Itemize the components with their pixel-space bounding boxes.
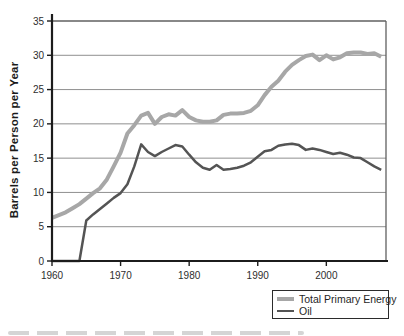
- x-tick-label: 1990: [247, 270, 270, 281]
- legend-item-total-primary-energy: Total Primary Energy: [277, 293, 388, 305]
- total-primary-energy-line: [52, 53, 381, 218]
- line-chart-canvas: 0510152025303519601970198019902000: [0, 0, 404, 336]
- total-primary-energy-line-swatch: [277, 297, 294, 301]
- y-tick-label: 15: [33, 153, 45, 164]
- x-tick-label: 1960: [41, 270, 64, 281]
- cutoff-caption-artifact: [8, 331, 304, 335]
- y-tick-label: 30: [33, 50, 45, 61]
- y-tick-label: 20: [33, 118, 45, 129]
- legend-label-total-primary-energy: Total Primary Energy: [299, 293, 396, 305]
- legend-label-oil: Oil: [299, 305, 312, 317]
- x-tick-label: 1970: [109, 270, 132, 281]
- x-tick-label: 2000: [315, 270, 338, 281]
- oil-line-swatch: [277, 310, 294, 313]
- oil-line: [52, 144, 381, 261]
- y-tick-label: 10: [33, 187, 45, 198]
- y-tick-label: 25: [33, 84, 45, 95]
- legend: Total Primary Energy Oil: [272, 290, 389, 319]
- y-tick-label: 5: [38, 221, 44, 232]
- y-axis-title: Barrels per Person per Year: [8, 10, 20, 270]
- legend-item-oil: Oil: [277, 305, 388, 317]
- y-tick-label: 0: [38, 256, 44, 267]
- x-tick-label: 1980: [178, 270, 201, 281]
- y-tick-label: 35: [33, 16, 45, 27]
- chart-figure: 0510152025303519601970198019902000 Barre…: [0, 0, 404, 336]
